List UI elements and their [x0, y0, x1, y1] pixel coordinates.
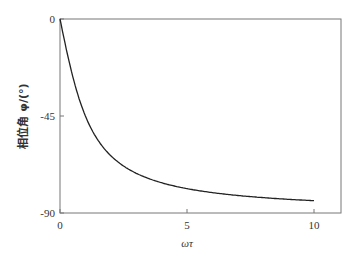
y-tick-45: -45 — [40, 110, 55, 122]
y-axis-title: 相位角 φ/(°) — [14, 83, 30, 148]
x-axis-title: ωτ — [181, 237, 194, 249]
x-tick-5: 5 — [184, 219, 190, 231]
y-tick-90: -90 — [40, 207, 55, 219]
phase-chart: 0 5 10 0 -45 -90 ωτ — [0, 0, 355, 258]
plot-frame — [60, 19, 341, 213]
x-tick-10: 10 — [309, 219, 321, 231]
axis-ticks — [60, 19, 314, 213]
phase-curve — [60, 19, 314, 201]
y-tick-0: 0 — [50, 13, 56, 25]
x-tick-0: 0 — [57, 219, 63, 231]
